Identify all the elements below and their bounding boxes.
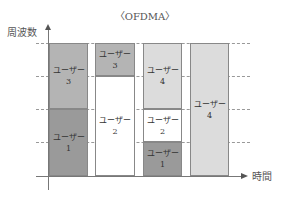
block-label: ユーザー <box>99 49 131 60</box>
block-label: ユーザー <box>194 99 226 110</box>
block-label: ユーザー <box>147 65 179 76</box>
block-number: 3 <box>112 60 117 71</box>
block-number: 3 <box>66 76 71 87</box>
x-axis-label: 時間 <box>252 168 272 183</box>
block-user-1: ユーザー 1 <box>143 142 182 176</box>
block-user-1: ユーザー 1 <box>49 109 88 176</box>
block-label: ユーザー <box>53 65 85 76</box>
block-number: 2 <box>112 126 117 137</box>
block-number: 1 <box>66 143 71 154</box>
block-user-3: ユーザー 3 <box>49 43 88 109</box>
block-label: ユーザー <box>147 115 179 126</box>
block-number: 4 <box>160 76 165 87</box>
block-label: ユーザー <box>99 115 131 126</box>
block-user-2: ユーザー 2 <box>143 109 182 142</box>
block-user-4: ユーザー 4 <box>143 43 182 109</box>
block-user-2: ユーザー 2 <box>95 76 135 176</box>
y-axis-label: 周波数 <box>7 24 37 39</box>
block-number: 1 <box>160 159 165 170</box>
diagram-title: 〈OFDMA〉 <box>0 8 290 23</box>
block-label: ユーザー <box>147 148 179 159</box>
x-axis <box>36 176 242 177</box>
block-user-3: ユーザー 3 <box>95 43 135 76</box>
block-user-4: ユーザー 4 <box>190 43 229 176</box>
y-axis-arrow-icon <box>45 24 51 30</box>
x-axis-arrow-icon <box>241 173 248 179</box>
block-number: 2 <box>160 126 165 137</box>
block-number: 4 <box>207 110 212 121</box>
block-label: ユーザー <box>53 132 85 143</box>
